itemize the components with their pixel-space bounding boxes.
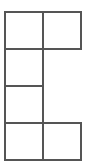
cell-r4-c2: [42, 122, 82, 161]
cell-r2-c1: [4, 48, 44, 87]
cell-r1-c1: [4, 11, 44, 50]
cell-r1-c2: [42, 11, 82, 50]
cell-r4-c1: [4, 122, 44, 161]
cell-r3-c1: [4, 85, 44, 124]
grid-diagram: [0, 0, 90, 162]
